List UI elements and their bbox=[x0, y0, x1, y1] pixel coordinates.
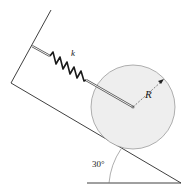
spring-coil bbox=[50, 52, 86, 81]
angle-arc bbox=[109, 149, 121, 183]
spring-rod-left-inner bbox=[32, 46, 50, 56]
incline-spring-disk-diagram: k R 30° bbox=[0, 0, 187, 192]
wall-line bbox=[11, 10, 51, 83]
angle-label: 30° bbox=[92, 159, 105, 169]
spring-constant-label: k bbox=[71, 48, 76, 58]
radius-label: R bbox=[144, 88, 152, 100]
